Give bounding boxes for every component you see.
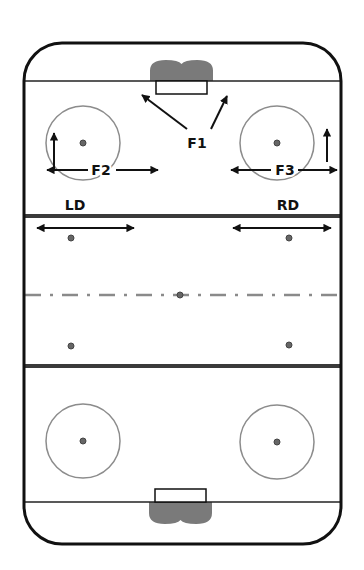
faceoff-dot-top-right	[274, 140, 280, 146]
label-F2: F2	[91, 162, 110, 178]
label-LD: LD	[65, 197, 86, 213]
position-labels: F1F2F3LDRD	[65, 135, 299, 213]
top-net	[156, 81, 207, 94]
hockey-rink-diagram: F1F2F3LDRD	[0, 0, 364, 570]
faceoff-dots	[68, 140, 292, 445]
faceoff-dot-neutral-bottom-left	[68, 343, 74, 349]
label-RD: RD	[277, 197, 299, 213]
label-F3: F3	[275, 162, 294, 178]
faceoff-dot-center	[177, 292, 183, 298]
faceoff-dot-top-left	[80, 140, 86, 146]
faceoff-dot-bottom-right	[274, 439, 280, 445]
faceoff-dot-bottom-left	[80, 438, 86, 444]
arrow-f1-left	[142, 95, 187, 129]
faceoff-dot-neutral-bottom-right	[286, 342, 292, 348]
top-net-crease	[150, 60, 213, 81]
faceoff-dot-neutral-top-left	[68, 235, 74, 241]
arrow-f1-right	[211, 96, 227, 129]
bottom-net	[155, 489, 206, 502]
faceoff-dot-neutral-top-right	[286, 235, 292, 241]
label-F1: F1	[187, 135, 206, 151]
bottom-net-crease	[149, 502, 212, 524]
rink-lines	[24, 81, 341, 502]
